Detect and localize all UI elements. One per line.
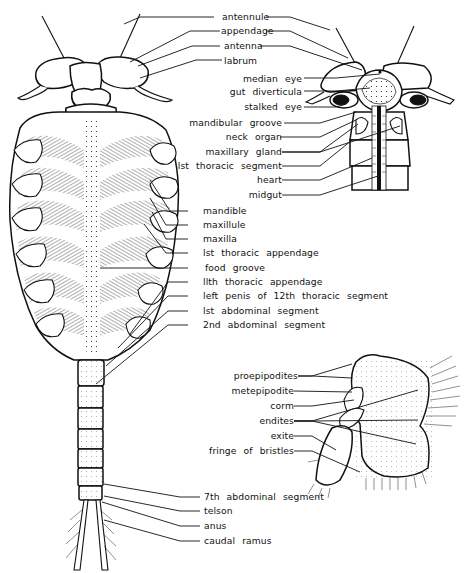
label-second-abdominal-segment: 2nd abdominal segment xyxy=(203,319,325,330)
label-mandible: mandible xyxy=(203,205,247,216)
label-maxilla: maxilla xyxy=(203,233,237,244)
label-endites: endites xyxy=(259,415,294,426)
label-mandibular-groove: mandibular groove xyxy=(189,117,282,128)
label-fringe-of-bristles: fringe of bristles xyxy=(209,445,294,456)
label-maxillule: maxillule xyxy=(203,219,246,230)
label-antenna: antenna xyxy=(224,40,263,51)
label-neck-organ: neck organ xyxy=(226,131,282,142)
label-left-penis: left penis of 12th thoracic segment xyxy=(203,290,388,301)
label-labrum: labrum xyxy=(224,55,257,66)
label-food-groove: food groove xyxy=(205,262,265,273)
label-telson: telson xyxy=(204,505,233,516)
thoracic-appendage-drawing xyxy=(308,355,460,498)
label-stalked-eye: stalked eye xyxy=(244,101,302,112)
label-first-abdominal-segment: lst abdominal segment xyxy=(203,305,319,316)
label-exite: exite xyxy=(271,430,294,441)
label-seventh-abdominal-segment: 7th abdominal segment xyxy=(204,491,324,502)
label-first-thoracic-segment: lst thoracic segment xyxy=(178,160,282,171)
label-maxillary-gland: maxillary gland xyxy=(205,146,282,157)
head-dorsal-drawing xyxy=(306,26,454,190)
whole-body-drawing xyxy=(10,14,179,570)
label-gut-diverticula: gut diverticula xyxy=(230,86,302,97)
label-heart: heart xyxy=(257,174,282,185)
label-metepipodite: metepipodite xyxy=(231,385,294,396)
label-first-thoracic-appendage: lst thoracic appendage xyxy=(203,247,319,258)
label-corm: corm xyxy=(270,400,294,411)
label-midgut: midgut xyxy=(249,189,282,200)
label-median-eye: median eye xyxy=(243,73,302,84)
label-anus: anus xyxy=(204,520,226,531)
label-appendage: appendage xyxy=(221,25,274,36)
label-caudal-ramus: caudal ramus xyxy=(204,535,272,546)
label-antennule: antennule xyxy=(222,11,269,22)
label-eleventh-thoracic-appendage: llth thoracic appendage xyxy=(203,276,323,287)
label-proepipodites: proepipodites xyxy=(234,370,298,381)
